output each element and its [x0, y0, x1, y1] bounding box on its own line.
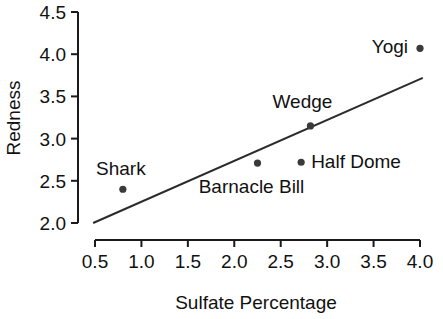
y-axis-title: Redness — [3, 81, 24, 156]
data-point-labels: SharkBarnacle BillHalf DomeWedgeYogi — [96, 36, 408, 197]
point-label-barnacle-bill: Barnacle Bill — [199, 176, 305, 197]
data-point-yogi — [416, 45, 423, 52]
x-tick-labels: 0.51.01.52.02.53.03.54.0 — [82, 251, 433, 272]
x-tick-label-2.0: 2.0 — [221, 251, 247, 272]
x-tick-label-3.0: 3.0 — [314, 251, 340, 272]
y-tick-label-4.5: 4.5 — [40, 2, 66, 23]
y-tick-label-2.5: 2.5 — [40, 171, 66, 192]
x-axis-title: Sulfate Percentage — [175, 292, 337, 313]
x-tick-label-1.0: 1.0 — [128, 251, 154, 272]
scatter-chart: 2.02.53.03.54.04.5 0.51.01.52.02.53.03.5… — [0, 0, 443, 319]
x-tick-label-1.5: 1.5 — [175, 251, 201, 272]
y-axis — [71, 12, 78, 223]
chart-canvas: 2.02.53.03.54.04.5 0.51.01.52.02.53.03.5… — [0, 0, 443, 319]
y-tick-label-3.5: 3.5 — [40, 86, 66, 107]
y-tick-label-3.0: 3.0 — [40, 129, 66, 150]
point-label-shark: Shark — [96, 158, 146, 179]
point-label-yogi: Yogi — [372, 36, 408, 57]
y-tick-label-4.0: 4.0 — [40, 44, 66, 65]
x-tick-label-0.5: 0.5 — [82, 251, 108, 272]
y-tick-label-2.0: 2.0 — [40, 213, 66, 234]
data-point-shark — [119, 186, 126, 193]
point-label-half-dome: Half Dome — [311, 151, 401, 172]
data-point-barnacle-bill — [254, 159, 261, 166]
data-point-half-dome — [298, 159, 305, 166]
y-tick-labels: 2.02.53.03.54.04.5 — [40, 2, 66, 234]
point-label-wedge: Wedge — [272, 91, 332, 112]
data-point-wedge — [307, 122, 314, 129]
x-tick-label-4.0: 4.0 — [407, 251, 433, 272]
x-axis — [95, 240, 420, 247]
x-tick-label-2.5: 2.5 — [268, 251, 294, 272]
x-tick-label-3.5: 3.5 — [360, 251, 386, 272]
